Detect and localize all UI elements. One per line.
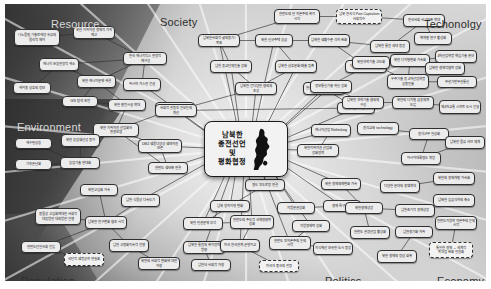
- node-n05[interactable]: 북한 에너지 문제 해결: [77, 75, 116, 88]
- node-n03[interactable]: 한국 에너지 믹스 안정적 재구성: [123, 52, 167, 65]
- node-n47[interactable]: 정보통신기술 혁신 강화: [310, 80, 352, 93]
- node-n65[interactable]: 미국 한국관계 균형외교: [220, 239, 260, 252]
- node-n18[interactable]: 북한 고립화 가속: [80, 184, 118, 196]
- node-n23[interactable]: 국단적 생명공학 현실화: [64, 253, 104, 266]
- node-n68[interactable]: 지식재산 보유한 도시 등장: [313, 242, 353, 255]
- node-n48[interactable]: 북한 과학기술 고도화: [352, 56, 390, 69]
- node-n31[interactable]: 한반도의 달 자본주의 복지 시작: [274, 9, 320, 24]
- node-n21[interactable]: 남북한 인구변화 협조 시작: [85, 216, 127, 229]
- node-n26[interactable]: 남북한 통합의 복지정책 방향: [183, 241, 225, 254]
- node-n04[interactable]: 에너지 운송 안정적 해소: [39, 58, 79, 71]
- node-n49[interactable]: 남북한 과학기술 협의체 구성: [342, 96, 384, 109]
- node-n59[interactable]: 남북 정치지형 변화: [210, 200, 250, 212]
- node-n06[interactable]: 해외충 상호의 정보: [13, 82, 51, 94]
- node-n55[interactable]: 원격근무 일상화: [409, 128, 449, 140]
- center-node[interactable]: 남북한 종전선언 및 평화협정: [204, 121, 288, 177]
- node-label: 한반도 단일사회 진입: [27, 245, 56, 249]
- node-n80[interactable]: 북한 경제체제 변화 가속: [321, 178, 361, 190]
- node-label: 남북한 생활 수준 격차 완화: [311, 38, 348, 42]
- node-label: 무선기반 무선통신: [445, 80, 470, 84]
- node-label: 남북한 통합의 복지정책 방향: [185, 243, 223, 252]
- node-n25[interactable]: 북한의 사회적 변화에 대한 저항: [138, 257, 180, 270]
- node-n76[interactable]: 한반도지정학 자본주의 논의 시작: [435, 216, 477, 230]
- node-n72[interactable]: 다양한 분야의 경쟁확대: [380, 180, 420, 193]
- node-label: 원격교육 technology: [363, 126, 392, 130]
- node-n78[interactable]: 통일한 경제 → 세계적 독과점 완화 일원화: [429, 242, 473, 258]
- node-label: 북한 경제의 정상 회복: [382, 254, 412, 258]
- node-n56[interactable]: 아시아대륙 철도 확장: [401, 152, 441, 165]
- node-n74[interactable]: 남북한 임금 격차의 축소: [433, 194, 475, 207]
- node-n45[interactable]: 우주기술 등 4차산업혁명 공동 진출: [387, 74, 429, 89]
- node-n15[interactable]: 농업기술 현대화: [60, 157, 100, 169]
- node-n14[interactable]: 기후 온난화: [15, 159, 52, 170]
- node-n44[interactable]: 북한 디지털 변화 가속화: [390, 54, 430, 67]
- node-label: 북한 지하자원 경제적 가치 제고: [75, 28, 113, 37]
- node-n58[interactable]: 철도 및 도로망 연결: [245, 179, 285, 191]
- node-n57[interactable]: 남북한 물류 허브 체계: [445, 136, 485, 149]
- node-n73[interactable]: 북한의 경제개발 가속화: [433, 172, 475, 185]
- node-n19[interactable]: 남한 식물상 다속도기: [121, 194, 160, 207]
- node-label: 남북한 임금 격차의 축소: [438, 198, 471, 202]
- node-n71[interactable]: 남한 초기적 경제성장: [395, 204, 435, 217]
- node-n01[interactable]: 나노물질 기술로 해양 유류의 물리적 제어: [14, 29, 60, 46]
- node-n27[interactable]: 남한내 사회적 저항: [191, 259, 231, 271]
- node-n63[interactable]: 한반도의 주도적 국제영향력 강화: [230, 215, 274, 229]
- node-n28[interactable]: 남북한사회적 삶의 동기/목표: [198, 34, 240, 47]
- node-n70[interactable]: 북한 경제성장: [345, 202, 383, 214]
- node-n67[interactable]: 미국과 중국의 갈등: [259, 260, 299, 272]
- node-n46[interactable]: 무선기반 무선통신: [437, 76, 477, 88]
- node-n35[interactable]: 남한 종교단체 진출 강화: [210, 60, 252, 73]
- node-n62[interactable]: 북한 인권문제 부각: [183, 217, 223, 230]
- node-label: 북한 고립화 가속: [88, 188, 111, 192]
- node-n33[interactable]: 한국사회 사고의 폭 확대: [403, 14, 445, 27]
- node-label: 남북 한국식 Post Capitalism 사회 착수: [338, 12, 380, 21]
- node-n64[interactable]: 지방 경제력 강화: [292, 220, 330, 232]
- node-n60[interactable]: 지방분권 강화: [277, 202, 315, 214]
- node-n24[interactable]: 남한 고령화 지속적 진행: [109, 239, 149, 252]
- node-label: 남한 종교단체 진출 강화: [215, 64, 248, 68]
- node-n22[interactable]: 한반도 단일사회 진입: [21, 241, 61, 253]
- node-n20[interactable]: 동물상 고립화에 대한 사회적 대응방안 대처방안 진행: [35, 208, 81, 225]
- node-n77[interactable]: 북한 경제의 정상 회복: [377, 250, 417, 263]
- node-label: 나노물질 기술로 해양 유류의 물리적 제어: [16, 33, 58, 42]
- node-n51[interactable]: 제4차교통 스마트 도시 건설: [439, 100, 481, 114]
- node-n29[interactable]: 북한 신규주택 공급: [255, 34, 293, 47]
- node-label: 아시아대륙 철도 확장: [407, 156, 436, 160]
- node-n30[interactable]: 남북한 생활 수준 격차 완화: [308, 34, 350, 47]
- node-n11[interactable]: 북한 지하자원 산업화와 환경오염: [93, 123, 139, 137]
- node-n66[interactable]: 한반도 및 자본주의 논의 시작: [269, 236, 311, 250]
- node-n75[interactable]: 남한 경기화 저하: [395, 226, 433, 238]
- node-label: 한반도지정학 자본주의 논의 시작: [437, 219, 475, 228]
- node-label: 남한 초기적 경제성장: [401, 208, 430, 212]
- node-label: 하시마 가스관 건설: [129, 82, 155, 86]
- node-label: 북한의 디지털 금융체계 도입: [394, 98, 432, 107]
- node-n07[interactable]: GIS 탐색 포함: [62, 96, 98, 107]
- node-n54[interactable]: 북한 지하자원 산업화 강화정책: [297, 144, 339, 157]
- node-n53[interactable]: 에너지산업 Rethinking: [311, 124, 351, 137]
- node-label: 한반도의 달 자본주의 복지 시작: [276, 12, 318, 21]
- node-n09[interactable]: 하시마 가스관 건설: [123, 78, 161, 91]
- node-n32[interactable]: 남북 한국식 Post Capitalism 사회 착수: [336, 9, 382, 24]
- node-n36[interactable]: 남북한 상호 문화/예술 접촉: [275, 60, 317, 73]
- node-n12[interactable]: 해수면 상승: [15, 138, 52, 149]
- node-n52[interactable]: 원격교육 technology: [357, 122, 399, 135]
- node-n79[interactable]: 남북한 경제적 협력 강화: [425, 62, 465, 75]
- node-n16[interactable]: DMZ 생물다양성 생태자원 보존: [138, 139, 182, 153]
- node-n34[interactable]: 남북한 통합 세대 등장: [370, 40, 410, 53]
- node-n40[interactable]: 사회적 갈등 및 진보논의 확산: [155, 104, 197, 117]
- node-label: 한반도의 주도적 국제영향력 강화: [232, 218, 272, 227]
- node-n13[interactable]: 북한 농업 생산성 증가: [61, 134, 100, 147]
- node-n69[interactable]: 한반도 관광산업 활성화: [350, 226, 390, 239]
- node-n38[interactable]: 남북한 간 다양한 협의체 조성: [235, 82, 277, 95]
- node-label: 북한 경제성장: [355, 206, 374, 210]
- node-label: 북한 발전시설 확대: [114, 103, 140, 107]
- node-label: 해수면 상승: [26, 141, 42, 145]
- node-label: 한반도 생태축 연결: [155, 166, 181, 170]
- node-n08[interactable]: 북한 발전시설 확대: [108, 99, 146, 111]
- node-n50[interactable]: 북한의 디지털 금융체계 도입: [392, 96, 434, 109]
- node-label: 4차산업혁명 핵심기술 분야: [438, 54, 475, 58]
- node-n17[interactable]: 한반도 생태축 연결: [148, 162, 188, 174]
- node-label: 북한 경제체제 변화 가속: [325, 182, 358, 186]
- node-n42[interactable]: 핵개발 연구 활성화: [414, 32, 452, 45]
- node-n02[interactable]: 북한 지하자원 경제적 가치 제고: [73, 26, 115, 39]
